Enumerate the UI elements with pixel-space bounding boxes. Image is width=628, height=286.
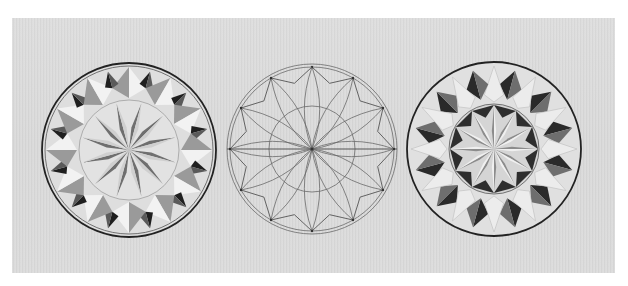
carved-rosette-right (407, 62, 581, 236)
pencil-layout-rosette (227, 64, 397, 234)
carved-rosette-left (42, 63, 216, 237)
rosette-artwork (0, 0, 628, 286)
